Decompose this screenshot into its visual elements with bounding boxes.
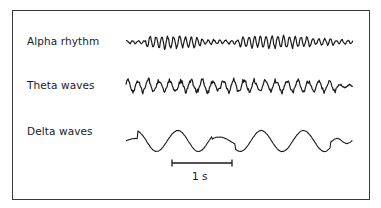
eeg-traces (0, 0, 381, 208)
scale-bar-label: 1 s (192, 170, 208, 182)
alpha-rhythm-trace (126, 35, 353, 49)
scale-bar (172, 160, 232, 167)
theta-waves-trace (126, 78, 353, 94)
delta-waves-trace (126, 130, 352, 151)
